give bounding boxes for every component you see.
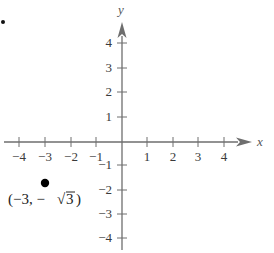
y-tick-label: −2: [98, 182, 112, 197]
y-axis-label: y: [116, 2, 124, 17]
x-axis-label: x: [256, 134, 263, 149]
x-axis-arrow-icon: [236, 138, 252, 147]
y-tick-label: 3: [106, 60, 113, 75]
x-tick-label: −4: [12, 149, 26, 164]
y-tick-label: 2: [106, 84, 113, 99]
y-tick-label: −3: [98, 206, 112, 221]
x-tick-label: 3: [195, 149, 202, 164]
y-axis: [117, 22, 127, 250]
x-tick-label: −3: [38, 149, 52, 164]
stray-dot: [1, 20, 5, 24]
sqrt-icon: √: [57, 191, 66, 207]
y-tick-label: 1: [106, 109, 113, 124]
y-tick-label: −4: [98, 230, 112, 245]
x-tick-label: 4: [221, 149, 228, 164]
x-tick-label: 2: [170, 149, 177, 164]
svg-text:(−3, −: (−3, −: [8, 191, 45, 208]
coordinate-plane: y x −4 −3 −2 −1 1 2 3 4 4 3 2 1 −1 −2 −3…: [0, 0, 274, 253]
point-label: (−3, − √ 3 ): [8, 191, 81, 208]
x-tick-label: −2: [64, 149, 78, 164]
y-tick-label: −1: [98, 157, 112, 172]
svg-text:3: 3: [66, 191, 74, 207]
x-axis: [4, 137, 252, 147]
data-point: [41, 179, 49, 187]
y-tick-label: 4: [106, 35, 113, 50]
x-tick-label: 1: [144, 149, 151, 164]
y-axis-arrow-icon: [118, 22, 127, 38]
svg-text:): ): [76, 191, 81, 208]
